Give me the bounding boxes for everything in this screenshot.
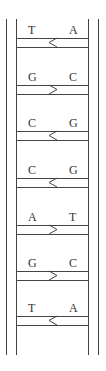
arrow-left-icon bbox=[48, 177, 58, 188]
outer-right-strand bbox=[98, 19, 99, 355]
base-pair: AT bbox=[16, 211, 89, 251]
left-base-label: C bbox=[28, 164, 36, 176]
arrow-right-icon bbox=[48, 224, 58, 235]
arrow-right-icon bbox=[48, 270, 58, 281]
left-base-label: G bbox=[28, 257, 37, 269]
left-base-label: G bbox=[28, 71, 37, 83]
base-pair: CG bbox=[16, 117, 89, 157]
base-pair: GC bbox=[16, 71, 89, 111]
base-pair: TA bbox=[16, 24, 89, 64]
left-base-label: A bbox=[28, 211, 37, 223]
base-pair: CG bbox=[16, 164, 89, 204]
right-base-label: C bbox=[69, 71, 77, 83]
base-pair: GC bbox=[16, 257, 89, 297]
left-base-label: T bbox=[28, 302, 35, 314]
arrow-right-icon bbox=[48, 84, 58, 95]
left-base-label: T bbox=[28, 24, 35, 36]
arrow-left-icon bbox=[48, 315, 58, 326]
right-base-label: T bbox=[69, 211, 76, 223]
right-base-label: G bbox=[69, 117, 78, 129]
right-base-label: A bbox=[69, 302, 78, 314]
left-base-label: C bbox=[28, 117, 36, 129]
right-base-label: A bbox=[69, 24, 78, 36]
outer-left-strand bbox=[6, 19, 7, 355]
right-base-label: G bbox=[69, 164, 78, 176]
right-base-label: C bbox=[69, 257, 77, 269]
base-pair: TA bbox=[16, 302, 89, 342]
arrow-left-icon bbox=[48, 130, 58, 141]
arrow-left-icon bbox=[48, 37, 58, 48]
